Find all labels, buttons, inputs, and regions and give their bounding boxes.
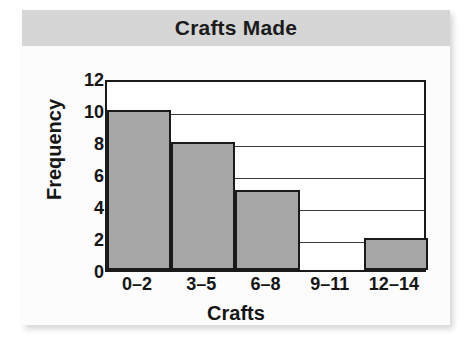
y-tick-label: 4 <box>68 199 104 217</box>
y-axis-title: Frequency <box>43 70 66 230</box>
y-tick-label: 12 <box>68 71 104 89</box>
screenshot-root: Crafts Made Frequency 024681012 0–23–56–… <box>0 0 471 340</box>
y-axis-tick-labels: 024681012 <box>68 80 104 272</box>
bar-series <box>107 82 424 270</box>
x-tick-label: 0–2 <box>105 274 169 295</box>
chart-body: Frequency 024681012 0–23–56–89–1112–14 C… <box>22 46 450 325</box>
chart-title-band: Crafts Made <box>22 10 450 46</box>
x-axis-tick-labels: 0–23–56–89–1112–14 <box>105 274 426 300</box>
y-tick-label: 8 <box>68 135 104 153</box>
chart-title: Crafts Made <box>175 16 297 40</box>
bar <box>171 142 235 270</box>
x-tick-label: 9–11 <box>298 274 362 295</box>
x-tick-label: 3–5 <box>169 274 233 295</box>
bar <box>107 110 171 270</box>
x-tick-label: 6–8 <box>233 274 297 295</box>
bar <box>364 238 428 270</box>
plot-area <box>105 80 426 272</box>
x-tick-label: 12–14 <box>362 274 426 295</box>
chart-card: Crafts Made Frequency 024681012 0–23–56–… <box>22 10 450 325</box>
y-tick-label: 2 <box>68 231 104 249</box>
x-axis-title: Crafts <box>22 302 450 325</box>
y-tick-label: 0 <box>68 263 104 281</box>
bar <box>235 190 299 270</box>
y-tick-label: 10 <box>68 103 104 121</box>
y-tick-label: 6 <box>68 167 104 185</box>
